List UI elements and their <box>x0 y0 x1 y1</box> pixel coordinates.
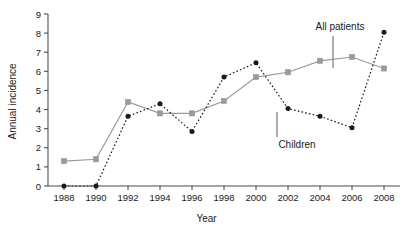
series-marker-all-patients <box>93 157 98 162</box>
chart-annotations-layer: All patientsChildren <box>277 21 364 150</box>
series-marker-children <box>62 184 67 189</box>
y-tick-label: 6 <box>36 66 41 77</box>
series-marker-all-patients <box>221 98 226 103</box>
series-marker-children <box>158 101 163 106</box>
chart-plot-area: 0123456789 19881990199219941996199820002… <box>0 0 413 235</box>
chart-series-layer <box>61 30 386 189</box>
y-tick-label: 0 <box>36 181 41 192</box>
y-tick-label: 9 <box>36 9 41 20</box>
x-axis-ticks: 1988199019921994199619982000200220042006… <box>53 186 394 203</box>
x-tick-label: 2002 <box>277 192 298 203</box>
series-marker-children <box>254 60 259 65</box>
x-tick-label: 2000 <box>245 192 266 203</box>
y-axis-ticks: 0123456789 <box>36 9 48 192</box>
x-tick-label: 2008 <box>373 192 394 203</box>
x-axis-title: Year <box>0 213 413 224</box>
y-tick-label: 7 <box>36 47 41 58</box>
x-tick-label: 1996 <box>181 192 202 203</box>
x-tick-label: 2004 <box>309 192 330 203</box>
series-marker-all-patients <box>253 74 258 79</box>
series-marker-all-patients <box>381 66 386 71</box>
x-tick-label: 1988 <box>53 192 74 203</box>
x-tick-label: 2006 <box>341 192 362 203</box>
x-tick-label: 1994 <box>149 192 170 203</box>
series-marker-all-patients <box>349 54 354 59</box>
y-axis-title: Annual incidence <box>7 68 18 140</box>
series-line-children <box>64 32 384 186</box>
annotation-label-children: Children <box>278 139 315 150</box>
series-marker-children <box>382 30 387 35</box>
series-marker-children <box>350 125 355 130</box>
series-marker-children <box>190 129 195 134</box>
series-marker-all-patients <box>317 58 322 63</box>
series-marker-all-patients <box>61 159 66 164</box>
x-tick-label: 1992 <box>117 192 138 203</box>
series-marker-all-patients <box>125 99 130 104</box>
y-tick-label: 2 <box>36 142 41 153</box>
series-marker-children <box>318 114 323 119</box>
series-marker-children <box>286 106 291 111</box>
y-tick-label: 3 <box>36 123 41 134</box>
y-tick-label: 1 <box>36 161 41 172</box>
series-marker-children <box>222 75 227 80</box>
series-marker-children <box>94 184 99 189</box>
series-marker-all-patients <box>157 111 162 116</box>
series-marker-all-patients <box>285 70 290 75</box>
y-tick-label: 8 <box>36 28 41 39</box>
x-tick-label: 1990 <box>85 192 106 203</box>
series-marker-children <box>126 114 131 119</box>
series-line-all-patients <box>64 57 384 161</box>
annotation-label-all-patients: All patients <box>316 21 365 32</box>
y-tick-label: 5 <box>36 85 41 96</box>
chart-figure: 0123456789 19881990199219941996199820002… <box>0 0 413 235</box>
series-marker-all-patients <box>189 111 194 116</box>
x-tick-label: 1998 <box>213 192 234 203</box>
y-tick-label: 4 <box>36 104 41 115</box>
